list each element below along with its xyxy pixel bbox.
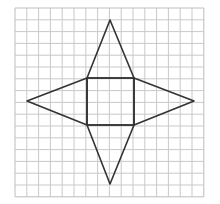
pyramid-net-diagram	[0, 0, 220, 204]
